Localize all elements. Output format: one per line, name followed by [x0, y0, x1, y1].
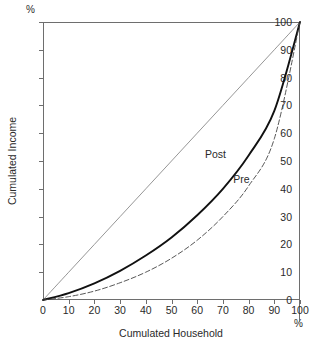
x-tick-label: 60 — [191, 304, 203, 316]
series-label-post: Post — [205, 148, 226, 160]
y-axis-unit-label: % — [26, 4, 35, 15]
x-tick-label: 10 — [63, 304, 75, 316]
x-tick-label: 50 — [166, 304, 178, 316]
plot-area: 0102030405060708090100 01020304050607080… — [43, 22, 300, 300]
x-tick-label: 40 — [140, 304, 152, 316]
series-label-pre: Pre — [233, 173, 249, 185]
x-tick-label: 100 — [291, 304, 309, 316]
x-tick-label: 80 — [243, 304, 255, 316]
x-tick-label: 90 — [268, 304, 280, 316]
x-tick-label: 30 — [114, 304, 126, 316]
series-line-equality — [43, 22, 300, 300]
x-tick-label: 0 — [40, 304, 46, 316]
x-axis-title: Cumulated Household — [119, 327, 223, 339]
x-tick-label: 20 — [89, 304, 101, 316]
lorenz-curve-chart: % % 0102030405060708090100 0102030405060… — [0, 0, 336, 345]
x-tick-label: 70 — [217, 304, 229, 316]
chart-curves — [43, 22, 300, 300]
y-axis-title: Cumulated Income — [6, 117, 18, 205]
